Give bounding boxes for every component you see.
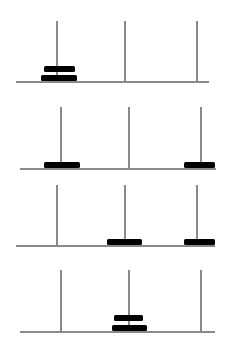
peg-2 xyxy=(128,270,130,332)
large-disk xyxy=(112,325,147,331)
peg-3 xyxy=(200,270,202,332)
small-disk xyxy=(114,315,143,321)
step-panel-4 xyxy=(0,0,228,352)
base-line xyxy=(20,331,215,333)
tower-of-hanoi-diagram xyxy=(0,0,228,352)
peg-1 xyxy=(60,270,62,332)
